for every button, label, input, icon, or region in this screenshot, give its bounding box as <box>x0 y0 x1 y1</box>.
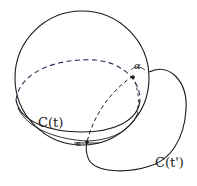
curve-c-t-front <box>16 100 140 132</box>
label-kappa: κ <box>76 140 81 148</box>
point-alpha <box>131 75 135 79</box>
label-c-t-prime: C(t') <box>155 156 184 169</box>
sphere-outline <box>15 11 149 145</box>
connecting-arc-dashed-2 <box>133 76 138 112</box>
equator-back-dashed <box>16 60 140 100</box>
connecting-arc-dashed <box>87 76 133 142</box>
label-c-t: C(t) <box>38 116 63 129</box>
label-alpha: α <box>134 61 141 71</box>
